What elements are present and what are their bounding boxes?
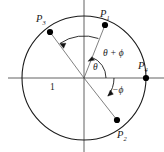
arc-theta-plus-phi: [60, 36, 99, 44]
radius-to-p3: [50, 32, 84, 78]
point-labels-group: P1 P2 P3 P4: [35, 8, 148, 142]
arc-theta-plus-phi-group: [60, 36, 99, 48]
point-label-p1: P1: [99, 8, 110, 21]
radii-group: [50, 25, 117, 120]
angle-label-theta-plus-phi: θ + ϕ: [103, 48, 124, 58]
point-marker-p1: [102, 22, 108, 28]
angle-label-theta: θ: [93, 62, 98, 72]
point-marker-p2: [114, 117, 120, 123]
axes-group: [8, 0, 164, 152]
arc-theta-plus-phi-arrowhead: [60, 43, 66, 48]
point-markers-group: [47, 22, 149, 123]
angle-labels-group: θ θ + ϕ −ϕ: [93, 48, 124, 95]
figure-canvas: P1 P2 P3 P4 θ θ + ϕ −ϕ 1: [0, 0, 164, 152]
unit-circle-figure: P1 P2 P3 P4 θ θ + ϕ −ϕ 1: [0, 0, 164, 152]
point-label-p2: P2: [116, 129, 127, 142]
point-marker-p3: [47, 29, 53, 35]
point-marker-p4: [143, 75, 149, 81]
point-label-p3: P3: [35, 13, 46, 26]
point-label-p4: P4: [137, 60, 148, 73]
radius-length-label: 1: [50, 82, 55, 92]
angle-label-minus-phi: −ϕ: [112, 85, 123, 95]
